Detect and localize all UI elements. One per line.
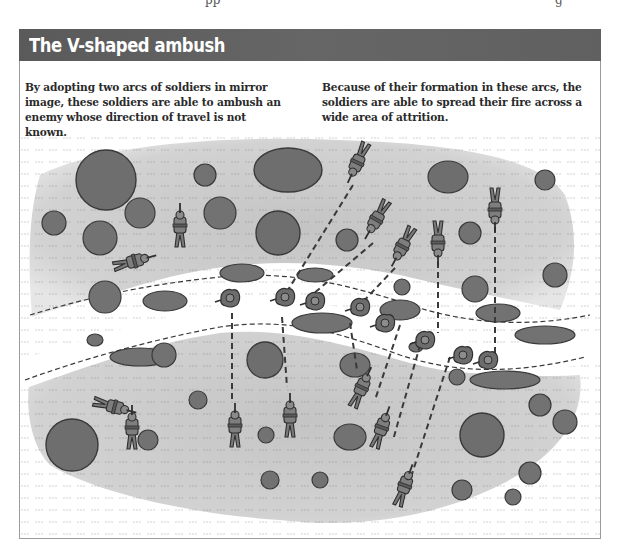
cut-off-fragment: pp	[205, 0, 220, 7]
cut-off-header: pp g	[0, 0, 621, 8]
cut-off-fragment: g	[555, 0, 563, 7]
figure-title-bar: The V-shaped ambush	[19, 29, 601, 61]
ambush-illustration	[20, 135, 600, 535]
figure-title: The V-shaped ambush	[29, 31, 225, 59]
caption-right: Because of their formation in these arcs…	[322, 80, 590, 125]
ambush-diagram-svg	[20, 135, 600, 535]
caption-left: By adopting two arcs of soldiers in mirr…	[25, 80, 285, 140]
